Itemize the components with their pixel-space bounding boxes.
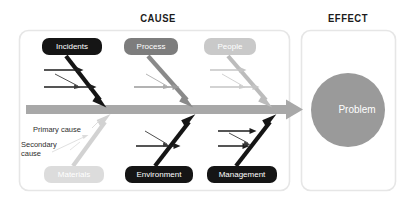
- effect-header: EFFECT: [314, 12, 383, 24]
- cause-header: CAUSE: [124, 12, 193, 24]
- category-box-incidents[interactable]: Incidents: [42, 38, 102, 55]
- problem-label: Problem: [324, 104, 390, 115]
- category-box-management[interactable]: Management: [207, 166, 277, 183]
- legend-primary-cause-label: Primary cause: [33, 125, 81, 134]
- fishbone-diagram: CAUSE EFFECT Incidents Process People Ma…: [0, 0, 410, 206]
- category-box-process[interactable]: Process: [124, 38, 178, 55]
- legend-secondary-cause-label: Secondary cause: [21, 140, 57, 158]
- category-box-environment[interactable]: Environment: [125, 166, 193, 183]
- category-box-materials[interactable]: Materials: [44, 166, 104, 183]
- category-box-people[interactable]: People: [204, 38, 256, 55]
